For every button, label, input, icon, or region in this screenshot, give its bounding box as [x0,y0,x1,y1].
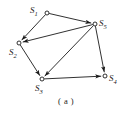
graph-edge-s3-to-s4 [45,76,101,79]
node-label-s3: S3 [35,84,43,95]
graph-node-s1 [45,11,49,15]
graph-node-s3 [40,77,44,81]
node-label-subscript: 3 [40,88,43,95]
node-label-s2: S2 [9,48,17,59]
node-label-subscript: 4 [114,78,117,85]
graph-edge-s2-to-s3 [20,45,39,75]
graph-node-s5 [93,22,97,26]
graph-node-s2 [17,41,21,45]
node-label-s5: S5 [99,19,107,30]
node-label-subscript: 5 [104,23,107,30]
graph-edge-s5-to-s3 [45,26,93,76]
figure-caption: ( a ) [58,96,74,106]
graph-edge-s1-to-s5 [50,14,91,23]
node-layer [17,11,107,81]
graph-edge-s1-to-s2 [22,15,45,40]
node-label-subscript: 1 [35,10,38,17]
figure-container: S1S2S3S4S5 ( a ) [0,0,127,115]
edge-layer [20,14,104,79]
graph-node-s4 [103,74,107,78]
graph-edge-s5-to-s4 [95,27,104,72]
node-label-s1: S1 [30,6,38,17]
node-label-subscript: 2 [14,52,17,59]
node-label-s4: S4 [109,74,117,85]
